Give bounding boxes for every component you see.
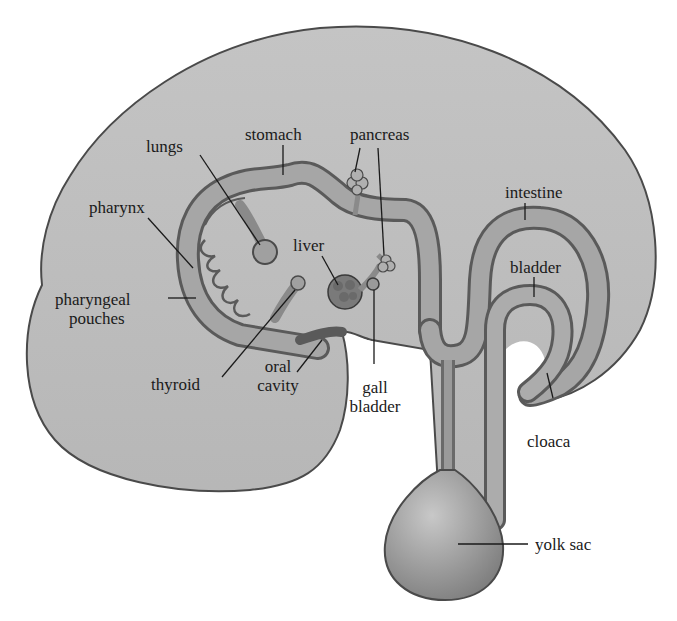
lung-bulb: [253, 240, 277, 264]
label-stomach: stomach: [245, 125, 302, 144]
label-pharyngeal-pouches: pharyngeal pouches: [55, 290, 131, 328]
label-oral-cavity: oral cavity: [250, 357, 306, 395]
label-pancreas: pancreas: [350, 125, 409, 144]
label-yolk-sac: yolk sac: [535, 535, 591, 554]
label-pharynx: pharynx: [89, 198, 145, 217]
liver-shape: [328, 275, 362, 309]
label-lungs: lungs: [146, 137, 183, 156]
label-oral-cavity-line2: cavity: [250, 376, 306, 395]
label-oral-cavity-line1: oral: [250, 357, 306, 376]
label-pharyngeal-pouches-line2: pouches: [55, 309, 131, 328]
label-bladder: bladder: [510, 258, 561, 277]
label-gall-bladder: gall bladder: [342, 378, 408, 416]
label-intestine: intestine: [505, 183, 563, 202]
label-cloaca: cloaca: [527, 432, 570, 451]
label-pharyngeal-pouches-line1: pharyngeal: [55, 290, 131, 309]
label-thyroid: thyroid: [151, 375, 200, 394]
label-gall-bladder-line1: gall: [342, 378, 408, 397]
label-gall-bladder-line2: bladder: [342, 397, 408, 416]
gall-bladder-shape: [367, 278, 379, 290]
label-liver: liver: [293, 236, 324, 255]
